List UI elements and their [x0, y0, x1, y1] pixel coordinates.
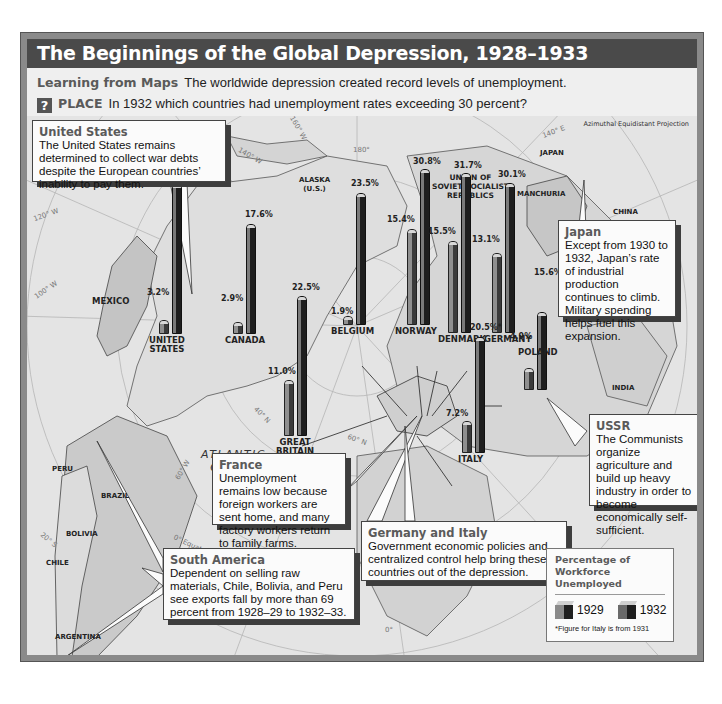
country-label: CANADA — [225, 336, 265, 345]
legend: Percentage of Workforce Unemployed 1929 … — [546, 548, 674, 642]
bar-group-italy: 7.2% 20.5%* ITALY — [456, 323, 496, 453]
callout-text: Government economic policies and central… — [368, 540, 560, 579]
bar-1929 — [492, 253, 502, 333]
bar-1932 — [505, 183, 515, 333]
bar-swatch-icon — [618, 601, 636, 619]
value-1932: 30.1% — [498, 170, 526, 179]
label-argentina: ARGENTINA — [55, 633, 101, 642]
label-alaska: ALASKA (U.S.) — [299, 176, 330, 194]
value-1932: 23.5% — [351, 179, 379, 188]
callout-united-states: United States The United States remains … — [32, 120, 226, 182]
value-1932: 22.5% — [292, 283, 320, 292]
bar-group-great-britain: 11.0% 22.5% GREAT BRITAIN — [278, 283, 318, 436]
bar-1932 — [172, 184, 182, 334]
legend-items: 1929 1932 — [555, 601, 665, 619]
bar-1932 — [356, 193, 366, 325]
bar-1929 — [407, 229, 417, 325]
grid-label: 180° — [353, 146, 370, 154]
callout-ussr: USSR The Communists organize agriculture… — [589, 414, 697, 506]
value-1932: 30.8% — [413, 157, 441, 166]
callout-text: The Communists organize agriculture and … — [596, 433, 694, 537]
value-1929: 4.9% — [510, 332, 532, 341]
legend-note: *Figure for Italy is from 1931 — [555, 624, 665, 633]
subheading: Learning from MapsThe worldwide depressi… — [27, 68, 697, 116]
bar-group-united-states: 3.2% 23.6% UNITED STATES — [153, 168, 193, 334]
page-title: The Beginnings of the Global Depression,… — [27, 39, 697, 68]
callout-france: France Unemployment remains low because … — [212, 453, 346, 525]
label-chile: CHILE — [46, 559, 69, 568]
legend-divider — [555, 594, 665, 595]
bar-1929 — [462, 421, 472, 453]
value-1932: 31.7% — [454, 161, 482, 170]
bar-1929 — [448, 241, 458, 333]
bar-group-norway: 15.4% 30.8% NORWAY — [401, 157, 441, 325]
callout-germany-italy: Germany and Italy Government economic po… — [361, 521, 567, 581]
legend-label: 1932 — [640, 603, 667, 617]
country-label: UNITED STATES — [149, 336, 185, 354]
callout-heading: USSR — [596, 419, 694, 433]
learning-from-maps: Learning from MapsThe worldwide depressi… — [37, 75, 567, 90]
value-1929: 13.1% — [472, 235, 500, 244]
callout-japan: Japan Except from 1930 to 1932, Japan’s … — [558, 220, 676, 317]
map-panel: The Beginnings of the Global Depression,… — [27, 39, 697, 655]
bar-swatch-icon — [555, 601, 573, 619]
label-mexico: MEXICO — [92, 297, 129, 306]
value-1929: 15.4% — [387, 215, 415, 224]
label-china: CHINA — [613, 208, 638, 217]
question-text: In 1932 which countries had unemployment… — [109, 96, 527, 111]
bar-1929 — [343, 316, 353, 325]
callout-text: The United States remains determined to … — [39, 139, 219, 191]
bar-1932 — [297, 296, 307, 436]
bar-1932 — [420, 169, 430, 325]
bar-1932 — [246, 224, 256, 334]
grid-label: 0° — [385, 626, 393, 634]
label-peru: PERU — [52, 465, 73, 474]
bar-group-canada: 2.9% 17.6% CANADA — [227, 210, 267, 334]
legend-item-1932: 1932 — [618, 601, 667, 619]
value-1929: 11.0% — [268, 367, 296, 376]
map-frame: The Beginnings of the Global Depression,… — [20, 32, 704, 662]
value-1929: 3.2% — [147, 288, 169, 297]
label-india: INDIA — [612, 384, 634, 393]
country-label: POLAND — [518, 348, 558, 357]
label-japan: JAPAN — [540, 149, 564, 158]
value-1929: 15.5% — [428, 227, 456, 236]
bar-1932 — [475, 337, 485, 453]
value-1932: 20.5%* — [470, 323, 502, 332]
bar-group-belgium: 1.9% 23.5% BELGIUM — [337, 179, 377, 325]
callout-heading: South America — [170, 553, 348, 567]
legend-item-1929: 1929 — [555, 601, 604, 619]
map-area: Azimuthal Equidistant Projection 180° 16… — [27, 116, 697, 655]
projection-label: Azimuthal Equidistant Projection — [583, 120, 689, 128]
callout-text: Unemployment remains low because foreign… — [219, 472, 339, 550]
callout-text: Except from 1930 to 1932, Japan’s rate o… — [565, 239, 669, 343]
learning-label: Learning from Maps — [37, 75, 178, 90]
country-label: NORWAY — [395, 327, 437, 336]
callout-heading: United States — [39, 125, 219, 139]
value-1932: 17.6% — [245, 210, 273, 219]
bar-group-poland: 4.9% 15.6% POLAND — [518, 268, 558, 390]
place-label: PLACE — [58, 96, 103, 111]
bar-1932 — [461, 173, 471, 333]
question-mark-icon: ? — [37, 98, 52, 113]
learning-text: The worldwide depression created record … — [184, 75, 566, 90]
value-1929: 2.9% — [221, 294, 243, 303]
bar-1929 — [284, 380, 294, 436]
bar-1929 — [233, 322, 243, 334]
callout-heading: Germany and Italy — [368, 526, 560, 540]
country-label: ITALY — [458, 455, 483, 464]
legend-title: Percentage of Workforce Unemployed — [555, 554, 665, 590]
value-1929: 1.9% — [331, 307, 353, 316]
value-1929: 7.2% — [446, 409, 468, 418]
bar-group-denmark: 15.5% 31.7% DENMARK — [442, 161, 482, 333]
place-question: ?PLACEIn 1932 which countries had unempl… — [37, 96, 527, 113]
callout-text: Dependent on selling raw materials, Chil… — [170, 567, 348, 619]
callout-heading: Japan — [565, 225, 669, 239]
callout-south-america: South America Dependent on selling raw m… — [163, 548, 355, 620]
legend-label: 1929 — [577, 603, 604, 617]
callout-heading: France — [219, 458, 339, 472]
bar-1929 — [524, 368, 534, 390]
country-label: BELGIUM — [331, 327, 374, 336]
label-brazil: BRAZIL — [101, 492, 129, 501]
bar-1929 — [159, 320, 169, 334]
